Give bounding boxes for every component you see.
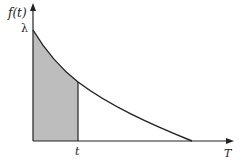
t-label: t bbox=[75, 145, 80, 158]
x-axis-arrow-icon bbox=[226, 138, 234, 144]
y-axis-label: f(t) bbox=[7, 6, 27, 20]
lambda-label: λ bbox=[21, 22, 28, 35]
x-axis-label: T bbox=[224, 147, 233, 160]
y-axis-arrow-icon bbox=[30, 3, 36, 11]
exponential-density-diagram: f(t) λ t T bbox=[0, 0, 244, 163]
shaded-area bbox=[33, 30, 78, 141]
